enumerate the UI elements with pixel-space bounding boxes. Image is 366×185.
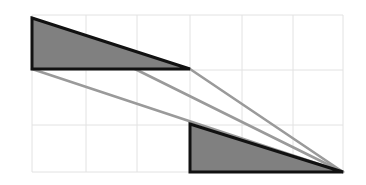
figure-canvas bbox=[0, 0, 366, 185]
geometry-figure-svg bbox=[0, 0, 366, 185]
